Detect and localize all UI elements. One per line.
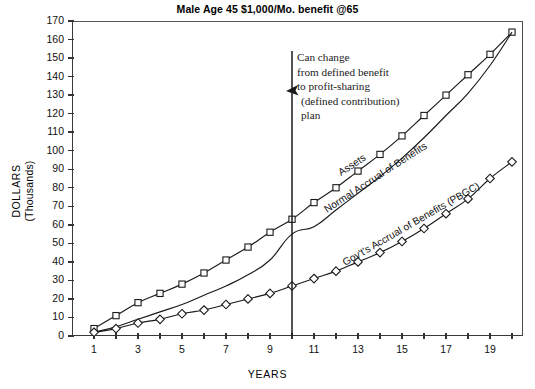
- x-axis-tick-label: 19: [475, 344, 505, 355]
- y-axis-tick-mark: [68, 280, 74, 281]
- y-axis-tick-mark: [68, 169, 74, 170]
- x-axis-tick-label: 13: [343, 344, 373, 355]
- x-axis-tick-mark: [313, 333, 314, 339]
- y-axis-tick-label: 20: [24, 293, 64, 304]
- y-axis-label: DOLLARS: [10, 146, 22, 236]
- y-axis-tick-mark: [68, 187, 74, 188]
- y-axis-tick-mark: [68, 131, 74, 132]
- x-axis-tick-label: 7: [211, 344, 241, 355]
- x-axis-tick-label: 17: [431, 344, 461, 355]
- y-axis-tick-label: 30: [24, 274, 64, 285]
- y-axis-tick-mark: [68, 206, 74, 207]
- x-axis-tick-mark: [357, 333, 358, 339]
- y-axis-tick-label: 40: [24, 256, 64, 267]
- y-axis-tick-label: 50: [24, 237, 64, 248]
- x-axis-tick-label: 5: [167, 344, 197, 355]
- y-axis-tick-mark: [68, 150, 74, 151]
- x-axis-tick-mark: [511, 333, 512, 339]
- y-axis-tick-mark: [68, 335, 74, 336]
- y-axis-tick-label: 100: [24, 145, 64, 156]
- y-axis-tick-label: 90: [24, 163, 64, 174]
- y-axis-tick-mark: [68, 113, 74, 114]
- y-axis-tick-label: 0: [24, 330, 64, 341]
- x-axis-tick-label: 15: [387, 344, 417, 355]
- x-axis-tick-mark: [379, 333, 380, 339]
- y-axis-tick-mark: [68, 39, 74, 40]
- x-axis-tick-mark: [269, 333, 270, 339]
- annotation-line: to profit-sharing: [297, 79, 399, 94]
- x-axis-tick-label: 11: [299, 344, 329, 355]
- x-axis-tick-mark: [423, 333, 424, 339]
- x-axis-tick-mark: [137, 333, 138, 339]
- y-axis-tick-mark: [68, 317, 74, 318]
- x-axis-tick-mark: [203, 333, 204, 339]
- y-axis-tick-mark: [68, 261, 74, 262]
- y-axis-tick-label: 10: [24, 311, 64, 322]
- y-axis-tick-mark: [68, 76, 74, 77]
- x-axis-tick-mark: [247, 333, 248, 339]
- x-axis-tick-mark: [445, 333, 446, 339]
- y-axis-tick-label: 60: [24, 219, 64, 230]
- annotation-line: plan: [297, 108, 399, 123]
- x-axis-tick-label: 3: [123, 344, 153, 355]
- annotation-text-block: Can changefrom defined benefitto profit-…: [297, 50, 399, 123]
- y-axis-tick-label: 110: [24, 126, 64, 137]
- y-axis-tick-mark: [68, 298, 74, 299]
- y-axis-tick-label: 130: [24, 89, 64, 100]
- x-axis-tick-label: 1: [79, 344, 109, 355]
- y-axis-tick-label: 160: [24, 34, 64, 45]
- x-axis-tick-mark: [93, 333, 94, 339]
- x-axis-tick-mark: [115, 333, 116, 339]
- y-axis-tick-label: 80: [24, 182, 64, 193]
- x-axis-tick-label: 9: [255, 344, 285, 355]
- annotation-line: from defined benefit: [297, 65, 399, 80]
- y-axis-tick-label: 70: [24, 200, 64, 211]
- page-title: Male Age 45 $1,000/Mo. benefit @65: [0, 3, 535, 15]
- annotation-line: (defined contribution): [297, 94, 399, 109]
- x-axis-tick-mark: [181, 333, 182, 339]
- x-axis-tick-mark: [291, 333, 292, 339]
- y-axis-tick-label: 170: [24, 15, 64, 26]
- x-axis-tick-mark: [159, 333, 160, 339]
- x-axis-tick-mark: [401, 333, 402, 339]
- x-axis-tick-mark: [467, 333, 468, 339]
- y-axis-tick-label: 120: [24, 108, 64, 119]
- annotation-line: Can change: [297, 50, 399, 65]
- chart-page: Male Age 45 $1,000/Mo. benefit @65 DOLLA…: [0, 0, 535, 389]
- y-axis-tick-mark: [68, 243, 74, 244]
- y-axis-tick-label: 150: [24, 52, 64, 63]
- x-axis-label: YEARS: [0, 368, 535, 380]
- y-axis-tick-mark: [68, 20, 74, 21]
- x-axis-tick-mark: [489, 333, 490, 339]
- x-axis-tick-mark: [225, 333, 226, 339]
- y-axis-tick-mark: [68, 94, 74, 95]
- y-axis-tick-label: 140: [24, 71, 64, 82]
- x-axis-tick-mark: [335, 333, 336, 339]
- y-axis-tick-mark: [68, 57, 74, 58]
- y-axis-tick-mark: [68, 224, 74, 225]
